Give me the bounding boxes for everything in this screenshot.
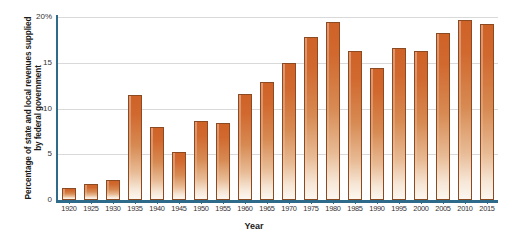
- bar: [458, 20, 472, 200]
- bar: [194, 121, 208, 200]
- bar: [172, 152, 186, 200]
- y-tick-label: 10: [26, 104, 52, 113]
- x-tick-label: 1925: [80, 204, 102, 213]
- y-tick-label: 5: [26, 149, 52, 158]
- x-tick-label: 2015: [476, 204, 498, 213]
- x-tick-label: 1985: [344, 204, 366, 213]
- x-tick-label: 2010: [454, 204, 476, 213]
- y-axis-tick-labels: 05101520%: [22, 0, 52, 240]
- x-tick-label: 1960: [234, 204, 256, 213]
- bar: [348, 51, 362, 200]
- bar: [392, 48, 406, 200]
- x-axis-tick-labels: 1920192519301935194019451950195519601965…: [58, 204, 498, 218]
- bar: [326, 22, 340, 200]
- gridlines: [58, 17, 498, 200]
- bar: [304, 37, 318, 200]
- x-tick-label: 1975: [300, 204, 322, 213]
- bar: [480, 24, 494, 200]
- x-tick-label: 2005: [432, 204, 454, 213]
- x-tick-label: 1945: [168, 204, 190, 213]
- gridline: [58, 154, 498, 155]
- x-tick-label: 1940: [146, 204, 168, 213]
- gridline: [58, 17, 498, 18]
- x-tick-label: 1990: [366, 204, 388, 213]
- x-axis-title: Year: [0, 221, 508, 231]
- x-tick-label: 1965: [256, 204, 278, 213]
- bar: [62, 188, 76, 200]
- bar: [128, 95, 142, 200]
- x-tick-label: 1930: [102, 204, 124, 213]
- bar: [436, 33, 450, 200]
- x-tick-label: 1950: [190, 204, 212, 213]
- y-tick-label: 0: [26, 195, 52, 204]
- bar-chart: Percentage of state and local revenues s…: [0, 0, 508, 240]
- x-tick-label: 1935: [124, 204, 146, 213]
- bar: [414, 51, 428, 200]
- gridline: [58, 63, 498, 64]
- x-tick-label: 1920: [58, 204, 80, 213]
- gridline: [58, 109, 498, 110]
- bar: [84, 184, 98, 200]
- plot-area: [58, 17, 498, 200]
- bar: [150, 127, 164, 200]
- y-tick-label: 15: [26, 58, 52, 67]
- x-tick-label: 1995: [388, 204, 410, 213]
- bar: [238, 94, 252, 200]
- bar: [282, 63, 296, 200]
- bar: [370, 68, 384, 200]
- x-tick-label: 1955: [212, 204, 234, 213]
- bar: [106, 180, 120, 200]
- bar: [260, 82, 274, 200]
- x-tick-label: 2000: [410, 204, 432, 213]
- x-axis-line: [56, 200, 498, 203]
- x-tick-label: 1980: [322, 204, 344, 213]
- x-tick-label: 1970: [278, 204, 300, 213]
- y-tick-label: 20%: [26, 12, 52, 21]
- bar: [216, 123, 230, 200]
